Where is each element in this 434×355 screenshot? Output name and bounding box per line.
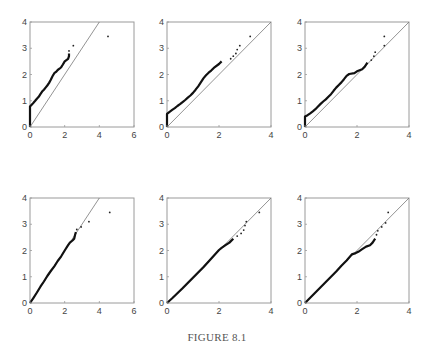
x-tick-label: 2 (354, 130, 359, 140)
data-point (88, 221, 90, 223)
y-tick-label: 1 (159, 272, 164, 282)
y-tick-label: 0 (297, 122, 302, 132)
axes-frame (30, 22, 134, 127)
data-point (232, 55, 234, 57)
data-point (236, 49, 238, 51)
x-tick-label: 0 (27, 130, 32, 140)
x-tick-label: 4 (406, 130, 411, 140)
y-tick-label: 4 (22, 17, 27, 27)
y-tick-label: 3 (159, 43, 164, 53)
figure-caption: FIGURE 8.1 (0, 331, 434, 343)
y-tick-label: 3 (297, 219, 302, 229)
plot-row1-col1: 012340246 (30, 22, 134, 127)
x-tick-label: 6 (131, 130, 136, 140)
data-point (373, 55, 375, 57)
reference-line (305, 22, 409, 127)
x-tick-label: 0 (302, 306, 307, 316)
data-point (381, 226, 383, 228)
data-point (249, 36, 251, 38)
y-tick-label: 4 (297, 193, 302, 203)
y-tick-label: 3 (22, 219, 27, 229)
y-tick-label: 1 (159, 96, 164, 106)
x-tick-label: 4 (97, 306, 102, 316)
y-tick-label: 2 (22, 70, 27, 80)
x-tick-label: 0 (164, 130, 169, 140)
data-point (370, 59, 372, 61)
y-tick-label: 0 (22, 122, 27, 132)
y-tick-label: 2 (159, 246, 164, 256)
data-point (383, 45, 385, 47)
y-tick-label: 0 (297, 298, 302, 308)
data-point (376, 234, 378, 236)
x-tick-label: 4 (406, 306, 411, 316)
y-tick-label: 2 (22, 246, 27, 256)
y-tick-label: 1 (22, 96, 27, 106)
x-tick-label: 2 (62, 306, 67, 316)
x-tick-label: 0 (27, 306, 32, 316)
data-series (167, 61, 222, 127)
data-point (240, 233, 242, 235)
x-tick-label: 2 (216, 130, 221, 140)
data-point (387, 212, 389, 214)
x-tick-label: 2 (216, 306, 221, 316)
y-tick-label: 3 (159, 219, 164, 229)
reference-line (167, 22, 271, 127)
data-series (305, 239, 375, 303)
data-series (30, 54, 69, 128)
data-point (80, 226, 82, 228)
x-tick-label: 4 (268, 130, 273, 140)
data-point (385, 222, 387, 224)
x-tick-label: 2 (62, 130, 67, 140)
plot-row2-col2: 01234024 (167, 198, 271, 303)
data-series (167, 239, 233, 303)
plot-row2-col3: 01234024 (305, 198, 409, 303)
plot-row1-col2: 01234024 (167, 22, 271, 127)
data-point (72, 45, 74, 47)
plot-row1-col3: 01234024 (305, 22, 409, 127)
y-tick-label: 1 (22, 272, 27, 282)
y-tick-label: 0 (22, 298, 27, 308)
y-tick-label: 4 (159, 193, 164, 203)
y-tick-label: 4 (297, 17, 302, 27)
data-point (377, 230, 379, 232)
y-tick-label: 0 (159, 122, 164, 132)
data-point (374, 51, 376, 53)
y-tick-label: 2 (297, 246, 302, 256)
reference-line (30, 22, 99, 127)
y-tick-label: 3 (22, 43, 27, 53)
data-point (245, 221, 247, 223)
data-point (109, 212, 111, 214)
y-tick-label: 1 (297, 272, 302, 282)
y-tick-label: 1 (297, 96, 302, 106)
x-tick-label: 0 (164, 306, 169, 316)
y-tick-label: 0 (159, 298, 164, 308)
data-point (107, 36, 109, 38)
y-tick-label: 2 (159, 70, 164, 80)
plot-row2-col1: 012340246 (30, 198, 134, 303)
x-tick-label: 6 (131, 306, 136, 316)
data-series (30, 232, 76, 303)
x-tick-label: 4 (97, 130, 102, 140)
y-tick-label: 4 (159, 17, 164, 27)
y-tick-label: 4 (22, 193, 27, 203)
y-tick-label: 3 (297, 43, 302, 53)
data-point (235, 53, 237, 55)
x-tick-label: 2 (354, 306, 359, 316)
data-point (244, 225, 246, 227)
data-point (230, 58, 232, 60)
data-point (258, 212, 260, 214)
data-point (383, 36, 385, 38)
data-point (239, 45, 241, 47)
data-point (68, 50, 70, 52)
data-point (76, 229, 78, 231)
x-tick-label: 4 (268, 306, 273, 316)
y-tick-label: 2 (297, 70, 302, 80)
data-point (236, 235, 238, 237)
x-tick-label: 0 (302, 130, 307, 140)
axes-frame (30, 198, 134, 303)
data-point (243, 229, 245, 231)
